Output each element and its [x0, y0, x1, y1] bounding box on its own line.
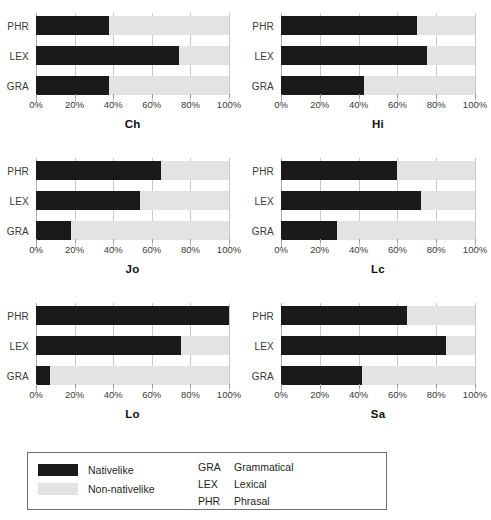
plot-area: PHRLEXGRA — [281, 303, 475, 389]
bar-row: LEX — [36, 46, 229, 65]
x-axis-tickmark — [281, 384, 282, 388]
x-axis-tickmark — [190, 94, 191, 98]
bar-row: LEX — [281, 336, 475, 355]
gridline — [229, 158, 230, 248]
x-axis-tickmark — [359, 239, 360, 243]
x-axis-tickmark — [75, 384, 76, 388]
bar-segment-nativelike — [281, 46, 427, 65]
legend-item: Nativelike — [38, 461, 155, 478]
bar-row: PHR — [281, 161, 475, 180]
bar-segment-nativelike — [281, 221, 337, 240]
legend-abbreviation-item: GRAGrammatical — [198, 461, 294, 476]
bar-row: GRA — [36, 221, 229, 240]
bar-segment-nativelike — [281, 16, 417, 35]
legend-color-swatch — [38, 483, 78, 495]
x-axis-tick-label: 40% — [349, 99, 368, 110]
x-axis-tick-label: 60% — [142, 244, 161, 255]
x-axis-tick-label: 100% — [217, 244, 241, 255]
bar-row-label: PHR — [252, 165, 274, 176]
chart-panel-lo: PHRLEXGRA0%20%40%60%80%100%Lo — [0, 290, 245, 435]
bar-row-label: LEX — [254, 195, 274, 206]
x-axis-tickmark — [320, 384, 321, 388]
bar-row: LEX — [281, 191, 475, 210]
panel-title: Lo — [36, 408, 229, 420]
x-axis: 0%20%40%60%80%100% — [281, 244, 475, 264]
chart-panel-hi: PHRLEXGRA0%20%40%60%80%100%Hi — [245, 0, 491, 145]
bar-row: GRA — [36, 76, 229, 95]
x-axis: 0%20%40%60%80%100% — [36, 244, 229, 264]
bar-segment-nativelike — [281, 366, 362, 385]
bar-row-label: GRA — [7, 80, 29, 91]
x-axis-tickmark — [475, 384, 476, 388]
bar-segment-nativelike — [36, 161, 161, 180]
bar-rows: PHRLEXGRA — [36, 13, 229, 99]
x-axis-tick-label: 0% — [274, 244, 288, 255]
x-axis-tickmark — [152, 239, 153, 243]
plot-area: PHRLEXGRA — [36, 303, 229, 389]
legend-abbreviation-text: Phrasal — [234, 495, 270, 507]
bar-row-label: LEX — [9, 340, 29, 351]
bar-row-label: GRA — [252, 225, 274, 236]
x-axis-tick-label: 60% — [388, 99, 407, 110]
bar-row-label: PHR — [252, 310, 274, 321]
x-axis-tickmark — [229, 384, 230, 388]
bar-rows: PHRLEXGRA — [281, 303, 475, 389]
bar-row-label: PHR — [7, 310, 29, 321]
x-axis-tick-label: 0% — [29, 389, 43, 400]
x-axis-tick-label: 0% — [29, 99, 43, 110]
x-axis-tickmark — [36, 384, 37, 388]
x-axis-tick-label: 40% — [349, 244, 368, 255]
x-axis-tick-label: 80% — [427, 244, 446, 255]
bar-row-label: GRA — [7, 225, 29, 236]
bar-row-label: PHR — [252, 20, 274, 31]
x-axis-tick-label: 100% — [463, 244, 487, 255]
chart-legend: NativelikeNon-nativelike GRAGrammaticalL… — [27, 452, 387, 510]
x-axis-tick-label: 40% — [104, 389, 123, 400]
bar-row: PHR — [281, 16, 475, 35]
x-axis-tickmark — [436, 94, 437, 98]
x-axis-tickmark — [475, 239, 476, 243]
chart-panel-jo: PHRLEXGRA0%20%40%60%80%100%Jo — [0, 145, 245, 290]
x-axis-tick-label: 40% — [349, 389, 368, 400]
bar-segment-nativelike — [36, 306, 229, 325]
x-axis-tickmark — [229, 239, 230, 243]
legend-item-label: Nativelike — [88, 464, 134, 476]
x-axis-tickmark — [190, 239, 191, 243]
bar-row-label: GRA — [252, 80, 274, 91]
x-axis-tick-label: 20% — [65, 99, 84, 110]
x-axis-tickmark — [113, 94, 114, 98]
x-axis-tickmark — [320, 94, 321, 98]
x-axis-tick-label: 0% — [274, 99, 288, 110]
x-axis-tick-label: 100% — [217, 389, 241, 400]
x-axis-tickmark — [475, 94, 476, 98]
chart-panel-lc: PHRLEXGRA0%20%40%60%80%100%Lc — [245, 145, 491, 290]
bar-row: LEX — [281, 46, 475, 65]
x-axis-tickmark — [75, 94, 76, 98]
legend-abbreviation-code: GRA — [198, 461, 234, 473]
gridline — [475, 158, 476, 248]
bar-row: PHR — [36, 306, 229, 325]
bar-row: GRA — [281, 366, 475, 385]
x-axis-tickmark — [397, 94, 398, 98]
legend-item-label: Non-nativelike — [88, 483, 155, 495]
bar-segment-nativelike — [36, 191, 140, 210]
bar-segment-nativelike — [281, 306, 407, 325]
x-axis-tickmark — [281, 94, 282, 98]
bar-segment-nativelike — [36, 46, 179, 65]
x-axis-tick-label: 60% — [388, 244, 407, 255]
x-axis-tick-label: 80% — [181, 244, 200, 255]
gridline — [229, 13, 230, 103]
x-axis-tick-label: 60% — [142, 99, 161, 110]
x-axis-tick-label: 100% — [217, 99, 241, 110]
bar-row-label: GRA — [7, 370, 29, 381]
x-axis-tickmark — [113, 239, 114, 243]
panel-title: Lc — [281, 263, 475, 275]
gridline — [475, 13, 476, 103]
bar-segment-nativelike — [281, 161, 397, 180]
bar-row: GRA — [36, 366, 229, 385]
bar-segment-non-nativelike — [36, 366, 229, 385]
bar-segment-nativelike — [36, 16, 109, 35]
bar-segment-nativelike — [36, 336, 181, 355]
bar-row: LEX — [36, 191, 229, 210]
bar-row-label: LEX — [9, 195, 29, 206]
